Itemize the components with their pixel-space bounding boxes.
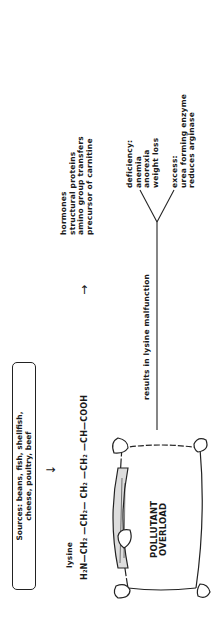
deficiency-list: deficiency: anemia anorexia weight loss xyxy=(126,138,160,188)
deficiency-item: weight loss xyxy=(152,138,161,188)
overload-line-2: OVERLOAD xyxy=(159,501,168,558)
lysine-diagram: Sources: beans, fish, shellfish, cheese,… xyxy=(0,0,214,628)
fork-branch-deficiency xyxy=(140,190,157,222)
malfunction-label: results in lysine malfunction xyxy=(143,274,152,400)
excess-item: reduces arginase xyxy=(188,94,197,188)
fork-branch-excess xyxy=(157,190,174,222)
overload-label: POLLUTANT OVERLOAD xyxy=(150,501,168,558)
excess-list: excess: urea forming enzyme reduces argi… xyxy=(171,94,197,188)
